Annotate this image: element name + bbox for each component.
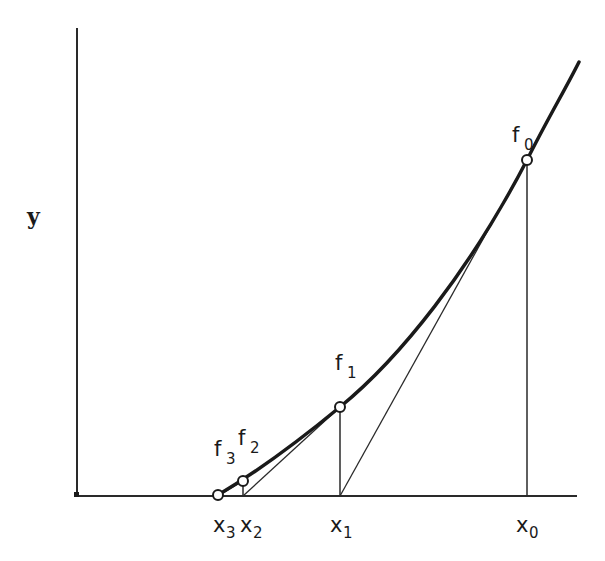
svg-text:x: x <box>240 513 252 537</box>
label-x1: x 1 <box>330 513 353 542</box>
svg-text:0: 0 <box>529 524 539 542</box>
svg-text:2: 2 <box>253 524 263 542</box>
svg-text:x: x <box>516 513 528 537</box>
label-f1: f 1 <box>335 351 357 382</box>
point-f3 <box>213 490 223 500</box>
point-f2 <box>238 476 248 486</box>
svg-text:x: x <box>213 513 225 537</box>
label-f2: f 2 <box>238 426 260 457</box>
origin-mark <box>74 492 79 497</box>
label-f3: f 3 <box>214 437 236 468</box>
label-x3: x 3 <box>213 513 236 542</box>
svg-text:f: f <box>512 123 520 147</box>
svg-text:3: 3 <box>226 450 236 468</box>
svg-text:0: 0 <box>524 136 534 154</box>
svg-text:3: 3 <box>226 524 236 542</box>
svg-text:1: 1 <box>347 364 357 382</box>
point-f0 <box>522 155 532 165</box>
newton-method-diagram: y f 0 f 1 f 2 f 3 x 0 x 1 x 2 x 3 <box>0 0 605 561</box>
svg-text:1: 1 <box>343 524 353 542</box>
y-axis-label: y <box>26 203 41 229</box>
svg-text:f: f <box>214 437 222 461</box>
svg-text:2: 2 <box>250 439 260 457</box>
label-x0: x 0 <box>516 513 539 542</box>
label-f0: f 0 <box>512 123 534 154</box>
svg-text:f: f <box>335 351 343 375</box>
point-f1 <box>335 402 345 412</box>
label-x2: x 2 <box>240 513 263 542</box>
function-curve <box>218 62 579 495</box>
svg-text:f: f <box>238 426 246 450</box>
svg-text:x: x <box>330 513 342 537</box>
